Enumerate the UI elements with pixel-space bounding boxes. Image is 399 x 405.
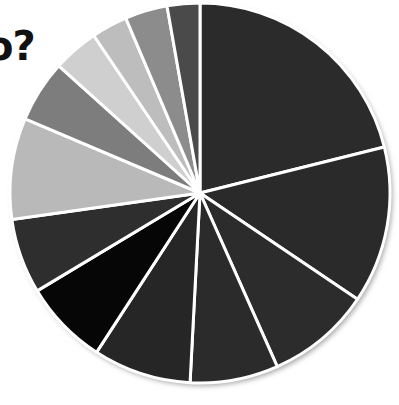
pie-chart bbox=[0, 0, 399, 405]
pie-slice-group bbox=[10, 3, 390, 383]
chart-title-fragment: o? bbox=[0, 26, 35, 66]
pie-chart-stage: o? bbox=[0, 0, 399, 405]
